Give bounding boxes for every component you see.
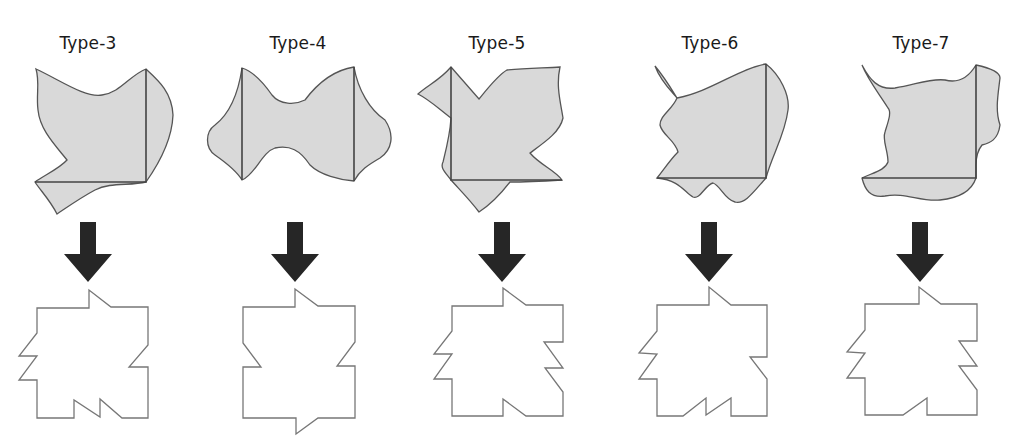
type-4-label: Type-4 — [269, 33, 326, 53]
type-3-label: Type-3 — [59, 33, 116, 53]
type-4-column — [208, 67, 392, 434]
type-6-column — [639, 64, 788, 416]
down-arrow-icon — [271, 222, 319, 282]
type-3-polygon-outline — [19, 290, 148, 418]
type-3-irregular-shape — [35, 69, 173, 214]
type-7-label: Type-7 — [892, 33, 949, 53]
type-5-polygon-outline — [434, 288, 563, 416]
type-6-irregular-shape — [655, 64, 788, 202]
type-6-polygon-outline — [639, 287, 767, 416]
type-7-irregular-shape — [862, 65, 1000, 200]
type-5-irregular-shape — [418, 67, 563, 212]
type-5-label: Type-5 — [468, 33, 525, 53]
down-arrow-icon — [685, 222, 733, 282]
type-3-column — [19, 69, 173, 418]
type-7-column — [847, 65, 1000, 415]
down-arrow-icon — [478, 222, 526, 282]
down-arrow-icon — [896, 222, 944, 282]
columns-group — [19, 64, 1000, 434]
diagram-canvas — [0, 0, 1031, 436]
type-6-label: Type-6 — [681, 33, 738, 53]
type-4-irregular-shape — [208, 67, 392, 181]
down-arrow-icon — [64, 222, 112, 282]
type-7-polygon-outline — [847, 287, 977, 415]
type-5-column — [418, 67, 563, 416]
type-4-polygon-outline — [243, 289, 355, 434]
